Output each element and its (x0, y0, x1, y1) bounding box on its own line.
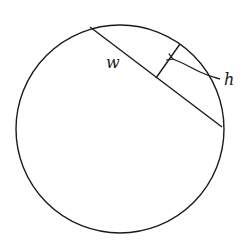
label-w: w (106, 53, 120, 72)
circle-chord-diagram: w h (0, 0, 244, 248)
pointer-arrow-icon (173, 59, 220, 79)
label-h: h (224, 70, 234, 89)
circle (16, 25, 224, 233)
